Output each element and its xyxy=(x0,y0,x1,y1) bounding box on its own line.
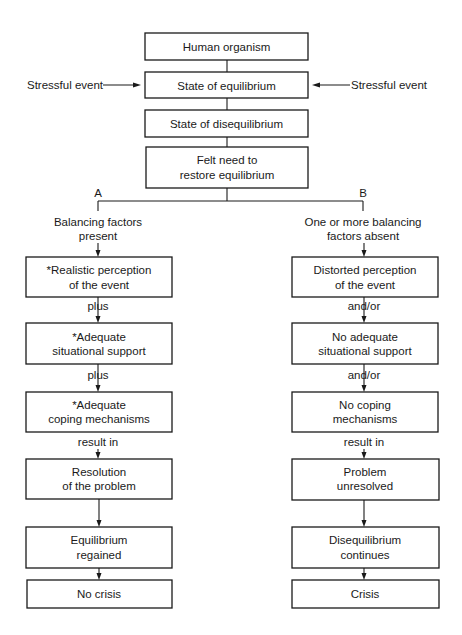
branch-b-heading-line1: One or more balancing xyxy=(305,216,422,228)
box-felt-need-label-line2: restore equilibrium xyxy=(180,169,275,181)
box-problem-unresolved-label-line2: unresolved xyxy=(337,480,393,492)
box-resolution-label-line2: of the problem xyxy=(62,480,136,492)
arrowhead-down-icon xyxy=(362,316,367,323)
connector-label-result-in: result in xyxy=(344,436,384,448)
arrowhead-down-icon xyxy=(362,452,367,459)
stressful-event-right: Stressful event xyxy=(312,79,428,91)
box-distorted-perception xyxy=(292,257,438,297)
arrowhead-down-icon xyxy=(97,520,102,527)
box-equilibrium-regained-label-line2: regained xyxy=(77,549,122,561)
arrowhead-down-icon xyxy=(96,452,101,459)
arrowhead-down-icon xyxy=(362,573,367,580)
stressful-event-right-label: Stressful event xyxy=(351,79,428,91)
box-disequilibrium-continues-label-line1: Disequilibrium xyxy=(329,534,401,546)
arrowhead-down-icon xyxy=(362,385,367,392)
arrowhead-down-icon xyxy=(96,316,101,323)
box-state-of-disequilibrium-label: State of disequilibrium xyxy=(170,118,283,130)
box-realistic-perception-label-line2: of the event xyxy=(69,279,130,291)
box-adequate-coping-label-line2: coping mechanisms xyxy=(48,413,150,425)
branch-a-letter: A xyxy=(94,187,102,199)
box-resolution xyxy=(26,459,172,499)
branch-a-heading-line2: present xyxy=(79,230,118,242)
branch-b-letter: B xyxy=(359,187,367,199)
branch-b: One or more balancing factors absent Dis… xyxy=(292,216,439,608)
box-equilibrium-regained-label-line1: Equilibrium xyxy=(71,534,128,546)
arrowhead-down-icon xyxy=(362,520,367,527)
branch-split: A B xyxy=(94,187,367,211)
stressful-event-left-label: Stressful event xyxy=(27,79,104,91)
box-no-adequate-support-label-line2: situational support xyxy=(318,345,412,357)
box-problem-unresolved-label-line1: Problem xyxy=(344,466,387,478)
box-resolution-label-line1: Resolution xyxy=(72,466,126,478)
box-realistic-perception xyxy=(26,257,172,297)
connector-label-result-in: result in xyxy=(78,436,118,448)
box-crisis-label: Crisis xyxy=(351,588,380,600)
box-adequate-support-label-line1: *Adequate xyxy=(72,331,126,343)
box-state-of-equilibrium-label: State of equilibrium xyxy=(177,80,275,92)
box-distorted-perception-label-line1: Distorted perception xyxy=(314,264,417,276)
arrowhead-down-icon xyxy=(96,250,101,257)
stressful-event-left: Stressful event xyxy=(27,79,141,91)
box-disequilibrium-continues-label-line2: continues xyxy=(340,549,389,561)
box-adequate-coping-label-line1: *Adequate xyxy=(72,399,126,411)
box-adequate-coping xyxy=(26,392,172,432)
box-adequate-support xyxy=(26,323,172,364)
crisis-flowchart: Human organism State of equilibrium Stat… xyxy=(0,0,462,635)
arrowhead-left-icon xyxy=(312,83,320,88)
box-realistic-perception-label-line1: *Realistic perception xyxy=(47,264,152,276)
arrowhead-down-icon xyxy=(97,573,102,580)
box-adequate-support-label-line2: situational support xyxy=(52,345,146,357)
branch-b-heading-line2: factors absent xyxy=(327,230,400,242)
arrowhead-right-icon xyxy=(133,83,141,88)
center-column: Human organism State of equilibrium Stat… xyxy=(145,33,308,188)
branch-a: Balancing factors present *Realistic per… xyxy=(26,216,172,608)
branch-a-heading-line1: Balancing factors xyxy=(54,216,142,228)
arrowhead-down-icon xyxy=(96,385,101,392)
box-no-coping-label-line2: mechanisms xyxy=(333,413,398,425)
box-no-coping xyxy=(292,392,438,432)
box-no-coping-label-line1: No coping xyxy=(339,399,391,411)
arrowhead-down-icon xyxy=(362,250,367,257)
box-felt-need-label-line1: Felt need to xyxy=(197,154,258,166)
box-no-adequate-support-label-line1: No adequate xyxy=(332,331,398,343)
box-no-adequate-support xyxy=(292,323,438,364)
box-human-organism-label: Human organism xyxy=(183,41,271,53)
box-distorted-perception-label-line2: of the event xyxy=(335,279,396,291)
box-no-crisis-label: No crisis xyxy=(77,588,121,600)
